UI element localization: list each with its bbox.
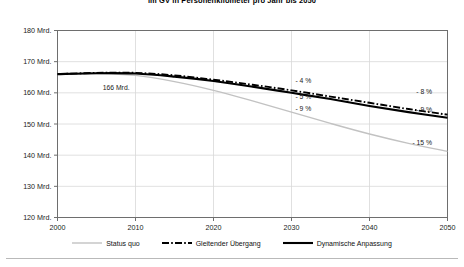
legend-swatch-icon bbox=[283, 240, 313, 246]
annotation-label: - 8 % bbox=[416, 88, 432, 95]
svg-text:170 Mrd.: 170 Mrd. bbox=[23, 57, 51, 66]
legend-item[interactable]: Status quo bbox=[72, 240, 139, 247]
legend-label: Gleitender Übergang bbox=[196, 240, 261, 247]
annotation-label: - 5 % bbox=[295, 93, 311, 100]
svg-text:2020: 2020 bbox=[206, 223, 222, 232]
svg-text:2040: 2040 bbox=[362, 223, 378, 232]
annotation-label: - 9 % bbox=[416, 106, 432, 113]
svg-text:2030: 2030 bbox=[284, 223, 300, 232]
chart-container: im GV in Personenkilometer pro Jahr bis … bbox=[0, 0, 464, 267]
svg-text:150 Mrd.: 150 Mrd. bbox=[23, 120, 51, 129]
svg-text:160 Mrd.: 160 Mrd. bbox=[23, 88, 51, 97]
annotation-label: - 9 % bbox=[295, 105, 311, 112]
annotation-label: - 4 % bbox=[295, 77, 311, 84]
svg-text:180 Mrd.: 180 Mrd. bbox=[23, 26, 51, 35]
annotation-label: 166 Mrd. bbox=[103, 84, 130, 91]
y-axis-ticks: 180 Mrd.170 Mrd.160 Mrd.150 Mrd.140 Mrd.… bbox=[23, 26, 57, 222]
legend-item[interactable]: Dynamische Anpassung bbox=[283, 240, 392, 247]
x-axis-ticks: 200020102020203020402050 bbox=[50, 218, 456, 232]
legend-label: Status quo bbox=[106, 240, 139, 247]
plot-area: 180 Mrd.170 Mrd.160 Mrd.150 Mrd.140 Mrd.… bbox=[0, 0, 464, 236]
chart-legend: Status quoGleitender ÜbergangDynamische … bbox=[0, 236, 464, 250]
svg-text:130 Mrd.: 130 Mrd. bbox=[23, 182, 51, 191]
annotation-label: - 15 % bbox=[412, 139, 432, 146]
series-line bbox=[58, 73, 448, 118]
svg-text:2050: 2050 bbox=[440, 223, 456, 232]
legend-label: Dynamische Anpassung bbox=[317, 240, 392, 247]
svg-text:120 Mrd.: 120 Mrd. bbox=[23, 213, 51, 222]
legend-swatch-icon bbox=[162, 240, 192, 246]
gridlines bbox=[58, 31, 448, 218]
legend-swatch-icon bbox=[72, 240, 102, 246]
footer-divider bbox=[6, 258, 458, 259]
legend-item[interactable]: Gleitender Übergang bbox=[162, 240, 261, 247]
svg-text:140 Mrd.: 140 Mrd. bbox=[23, 151, 51, 160]
svg-text:2000: 2000 bbox=[50, 223, 66, 232]
svg-text:2010: 2010 bbox=[128, 223, 144, 232]
